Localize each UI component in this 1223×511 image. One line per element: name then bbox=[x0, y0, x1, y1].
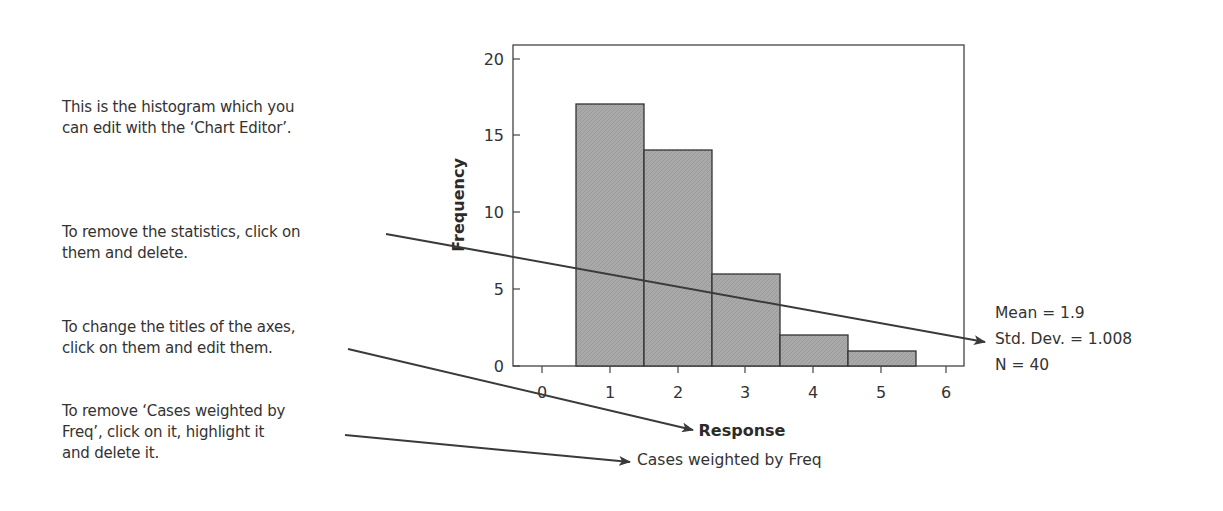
y-axis-tick-labels: 0 5 10 15 20 bbox=[484, 50, 504, 376]
stat-mean: Mean = 1.9 bbox=[995, 300, 1132, 326]
svg-text:10: 10 bbox=[484, 203, 504, 222]
svg-text:20: 20 bbox=[484, 50, 504, 69]
svg-text:4: 4 bbox=[808, 383, 818, 402]
svg-text:0: 0 bbox=[537, 383, 547, 402]
y-axis-title[interactable]: Frequency bbox=[449, 158, 468, 252]
x-axis-tick-labels: 0 1 2 3 4 5 6 bbox=[537, 383, 951, 402]
bar-3[interactable] bbox=[712, 274, 780, 366]
statistics-annotation[interactable]: Mean = 1.9 Std. Dev. = 1.008 N = 40 bbox=[995, 300, 1132, 378]
svg-text:3: 3 bbox=[740, 383, 750, 402]
bar-4[interactable] bbox=[780, 335, 848, 366]
histogram-chart[interactable]: 0 5 10 15 20 0 1 2 3 4 5 6 Frequency Res… bbox=[0, 0, 1223, 511]
bar-2[interactable] bbox=[644, 150, 712, 366]
bar-1[interactable] bbox=[576, 104, 644, 366]
bar-5[interactable] bbox=[848, 351, 916, 366]
svg-text:1: 1 bbox=[605, 383, 615, 402]
svg-text:5: 5 bbox=[494, 280, 504, 299]
stat-std-dev: Std. Dev. = 1.008 bbox=[995, 326, 1132, 352]
svg-text:2: 2 bbox=[673, 383, 683, 402]
svg-text:0: 0 bbox=[494, 357, 504, 376]
x-axis-title[interactable]: Response bbox=[699, 421, 786, 440]
svg-text:6: 6 bbox=[941, 383, 951, 402]
svg-text:15: 15 bbox=[484, 126, 504, 145]
svg-text:5: 5 bbox=[876, 383, 886, 402]
stat-n: N = 40 bbox=[995, 352, 1132, 378]
cases-weighted-note[interactable]: Cases weighted by Freq bbox=[637, 451, 822, 469]
arrow-to-weighted-note bbox=[345, 435, 630, 462]
x-axis-ticks bbox=[542, 366, 946, 373]
